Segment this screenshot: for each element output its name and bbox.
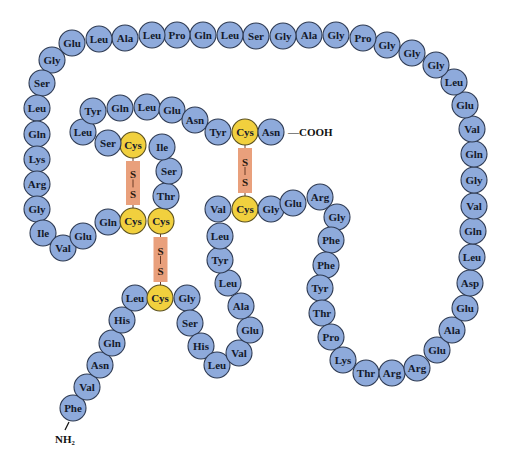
residue-label: Phe: [322, 234, 340, 246]
residue-label: Leu: [143, 29, 161, 41]
residue: Gly: [399, 40, 425, 66]
residue-label: Glu: [63, 37, 81, 49]
residue-label: Ala: [117, 32, 134, 44]
residue-label: Pro: [323, 331, 340, 343]
residue-label: Phe: [317, 259, 335, 271]
sulfur-atom-label: S: [242, 176, 248, 188]
residue-label: Lys: [29, 153, 46, 165]
residue-label: Leu: [74, 126, 92, 138]
residue: Tyr: [80, 98, 106, 124]
residue: Ser: [95, 130, 121, 156]
residue-label: Leu: [445, 76, 463, 88]
residue-label: Gln: [99, 216, 117, 228]
residue-label: His: [114, 314, 131, 326]
residue: Ser: [243, 23, 269, 49]
residue: Arg: [379, 360, 405, 386]
residue: Val: [459, 116, 485, 142]
residue: Phe: [313, 252, 339, 278]
residue-label: Gly: [43, 54, 61, 66]
residue-label: Arg: [311, 191, 330, 203]
residue-label: Asn: [262, 126, 280, 138]
residue-label: Ala: [233, 300, 250, 312]
residue-label: Cys: [236, 203, 254, 215]
residue-label: Cys: [124, 139, 142, 151]
residue: Arg: [24, 171, 50, 197]
residue: Leu: [86, 26, 112, 52]
cysteine-residue: Cys: [147, 285, 173, 311]
residue: Glu: [237, 317, 263, 343]
residue-label: Ser: [161, 165, 177, 177]
residue: Thr: [309, 300, 335, 326]
residue-label: Cys: [151, 292, 169, 304]
residue-label: Val: [464, 123, 480, 135]
sulfur-atom-label: S: [130, 188, 136, 200]
disulfide-bridge: SS: [126, 156, 140, 210]
residue-label: Arg: [408, 362, 427, 374]
residue: Gln: [24, 121, 50, 147]
residue-label: Val: [466, 200, 482, 212]
residue: Pro: [350, 25, 376, 51]
residue: Leu: [139, 22, 165, 48]
residue: Leu: [215, 270, 241, 296]
residue-label: Gly: [178, 292, 196, 304]
residue-label: Val: [231, 347, 247, 359]
residue-label: Leu: [90, 33, 108, 45]
residue: Glu: [70, 223, 96, 249]
residue-label: His: [193, 340, 210, 352]
residue-label: Asp: [461, 277, 479, 289]
residue: Glu: [452, 295, 478, 321]
residue-label: Gly: [262, 203, 280, 215]
residue-label: Gly: [465, 174, 483, 186]
residue: Lys: [24, 146, 50, 172]
residue: Thr: [353, 360, 379, 386]
residue-label: Ala: [444, 324, 461, 336]
residue: Gln: [190, 22, 216, 48]
residue-label: Leu: [211, 230, 229, 242]
residue-label: Gln: [194, 29, 212, 41]
residue: Val: [461, 193, 487, 219]
residue: Phe: [318, 227, 344, 253]
residue-label: Ser: [182, 317, 198, 329]
disulfide-bridge: SS: [154, 232, 168, 287]
residue-label: Asn: [91, 359, 109, 371]
residue: Tyr: [207, 247, 233, 273]
residue: Gly: [374, 32, 400, 58]
residue: Ala: [228, 293, 254, 319]
residue-label: Thr: [313, 307, 331, 319]
residue-label: Glu: [74, 230, 92, 242]
residue: Gln: [107, 95, 133, 121]
residue-label: Asn: [186, 114, 204, 126]
residue: Val: [205, 196, 231, 222]
residue: Pro: [164, 22, 190, 48]
residue-label: Pro: [169, 29, 186, 41]
residue-label: Ala: [301, 29, 318, 41]
residue-label: Leu: [126, 292, 144, 304]
residue: Pro: [318, 324, 344, 350]
residue-label: Leu: [28, 102, 46, 114]
residue: Ser: [29, 70, 55, 96]
residue-label: Gly: [28, 203, 46, 215]
residue-label: Val: [55, 242, 71, 254]
residue-label: Gly: [427, 59, 445, 71]
residue: Ser: [156, 158, 182, 184]
residue: Thr: [153, 183, 179, 209]
residue: Leu: [459, 244, 485, 270]
sulfur-atom-label: S: [130, 168, 136, 180]
residue: Leu: [134, 94, 160, 120]
residue: Gly: [324, 204, 350, 230]
residue: Gly: [270, 23, 296, 49]
residue: Tyr: [307, 275, 333, 301]
residue: Glu: [280, 190, 306, 216]
residue-label: Val: [210, 203, 226, 215]
residue-label: Gln: [464, 225, 482, 237]
residue: Glu: [159, 97, 185, 123]
residue-label: Leu: [221, 29, 239, 41]
residue: Gly: [24, 196, 50, 222]
residue: Leu: [217, 22, 243, 48]
cysteine-residue: Cys: [120, 208, 146, 234]
residue: Glu: [452, 92, 478, 118]
residue-label: Gly: [274, 30, 292, 42]
residue: Asp: [457, 270, 483, 296]
residue: Lys: [330, 347, 356, 373]
residue-label: Gln: [103, 337, 121, 349]
